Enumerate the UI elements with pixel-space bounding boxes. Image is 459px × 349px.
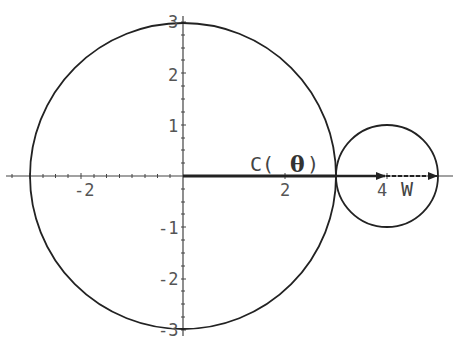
label-w: W [401, 177, 414, 201]
label-c-suffix: ) [307, 152, 319, 176]
label-theta: θ [290, 151, 305, 177]
y-tick-label-neg1: -1 [158, 218, 178, 238]
y-tick-label-3: 3 [168, 12, 178, 32]
x-tick-label-4: 4 [377, 180, 387, 200]
y-tick-label-2: 2 [168, 65, 178, 85]
plot-area: C( θ ) W -2 2 4 3 2 1 -1 -2 -3 [0, 0, 459, 349]
y-tick-label-1: 1 [168, 116, 178, 136]
label-c-prefix: C( [250, 152, 274, 176]
y-tick-label-neg2: -2 [158, 269, 178, 289]
diagram-canvas: C( θ ) W -2 2 4 3 2 1 -1 -2 -3 [0, 0, 459, 349]
x-tick-label-2: 2 [280, 180, 290, 200]
y-tick-label-neg3: -3 [158, 320, 178, 340]
x-tick-label-neg2: -2 [74, 180, 94, 200]
